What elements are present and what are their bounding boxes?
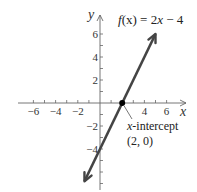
axes: [18, 15, 186, 190]
x-tick-label: −4: [50, 105, 62, 117]
annotation-leader-line: [124, 106, 132, 119]
x-tick-label: −2: [72, 105, 84, 117]
annotation-text: -intercept: [132, 119, 179, 133]
y-tick-label: 6: [93, 28, 99, 40]
y-tick-label: −2: [86, 120, 98, 132]
x-tick-label: 4: [142, 105, 148, 117]
y-axis-label: y: [86, 7, 95, 22]
function-eq: = 2: [137, 12, 157, 27]
function-rest: − 4: [163, 12, 184, 27]
intercept-coordinates: (2, 0): [127, 134, 153, 148]
x-tick-label: 6: [164, 105, 170, 117]
intercept-dot: [119, 100, 125, 106]
x-axis-label: x: [179, 104, 187, 119]
y-tick-label: 4: [93, 51, 99, 63]
x-tick-label: −6: [28, 105, 40, 117]
x-intercept-point: [119, 100, 125, 106]
function-arg: (x): [122, 12, 137, 27]
function-label: f(x) = 2x − 4: [118, 12, 184, 27]
y-tick-label: 2: [93, 74, 99, 86]
intercept-annotation: x-intercept: [126, 119, 179, 133]
function-graph: −6−4−246642−2−4 x y f(x) = 2x − 4 x-inte…: [0, 0, 197, 192]
